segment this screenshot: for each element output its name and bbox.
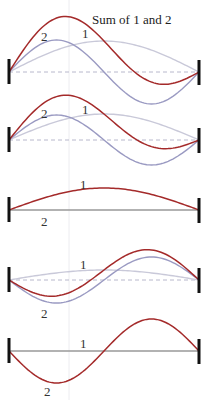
mode-label-1: 1 <box>82 102 89 117</box>
left-fixed-end <box>8 338 11 363</box>
left-fixed-end <box>8 59 11 84</box>
wave-panel-1: 21 <box>8 16 201 104</box>
left-fixed-end <box>8 197 11 222</box>
right-fixed-end <box>198 60 201 85</box>
mode-label-1: 1 <box>82 26 89 41</box>
mode-1-curve <box>9 114 199 140</box>
mode-label-2: 2 <box>41 214 48 229</box>
diagram-title: Sum of 1 and 2 <box>92 12 171 27</box>
mode-label-2: 2 <box>44 384 51 399</box>
mode-label-1: 1 <box>80 177 87 192</box>
wave-panel-5: 12 <box>8 319 201 399</box>
panels-group: 2121121212 <box>8 16 201 399</box>
left-fixed-end <box>8 267 11 292</box>
mode-label-2: 2 <box>41 106 48 121</box>
right-fixed-end <box>198 198 201 223</box>
mode-1-curve <box>9 270 199 280</box>
right-fixed-end <box>198 128 201 153</box>
wave-panel-4: 12 <box>8 250 201 321</box>
mode-label-1: 1 <box>80 257 87 272</box>
standing-wave-diagram: Sum of 1 and 2 2121121212 <box>0 0 206 400</box>
sum-curve <box>9 250 199 297</box>
mode-label-2: 2 <box>41 306 48 321</box>
mode-label-1: 1 <box>80 336 87 351</box>
left-fixed-end <box>8 127 11 152</box>
wave-panel-2: 21 <box>8 95 201 165</box>
wave-panel-3: 12 <box>8 177 201 229</box>
right-fixed-end <box>198 339 201 364</box>
sum-curve <box>9 188 199 210</box>
mode-label-2: 2 <box>41 29 48 44</box>
right-fixed-end <box>198 268 201 293</box>
